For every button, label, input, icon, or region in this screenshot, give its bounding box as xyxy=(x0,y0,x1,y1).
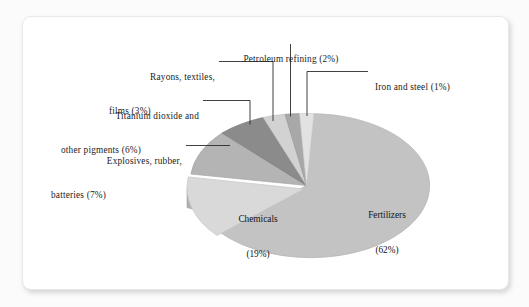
slice-label-chemicals-line1: Chemicals xyxy=(204,214,312,226)
callout-label-explosives-rubber-batteries-line1: Explosives, rubber, xyxy=(51,156,182,167)
slice-label-fertilizers-line1: Fertilizers xyxy=(332,210,442,222)
callout-label-explosives-rubber-batteries: Explosives, rubber, batteries (7%) xyxy=(51,133,182,224)
pie-chart: Petroleum refining (2%) Iron and steel (… xyxy=(23,17,508,289)
slice-label-chemicals-line2: (19%) xyxy=(204,249,312,261)
callout-label-explosives-rubber-batteries-line2: batteries (7%) xyxy=(51,190,182,201)
slice-label-fertilizers-line2: (62%) xyxy=(332,245,442,257)
callout-label-petroleum-refining-line1: Petroleum refining (2%) xyxy=(186,54,396,65)
callout-label-iron-and-steel-line1: Iron and steel (1%) xyxy=(375,82,505,93)
callout-label-titanium-dioxide-line1: Titanium dioxide and xyxy=(61,111,199,122)
slice-label-fertilizers: Fertilizers (62%) xyxy=(332,187,442,280)
figure-card: Petroleum refining (2%) Iron and steel (… xyxy=(22,16,509,290)
callout-label-petroleum-refining: Petroleum refining (2%) xyxy=(186,31,396,88)
callout-label-iron-and-steel: Iron and steel (1%) xyxy=(375,59,505,116)
callout-label-rayons-textiles-films-line1: Rayons, textiles, xyxy=(85,72,215,83)
slice-label-chemicals: Chemicals (19%) xyxy=(204,191,312,284)
